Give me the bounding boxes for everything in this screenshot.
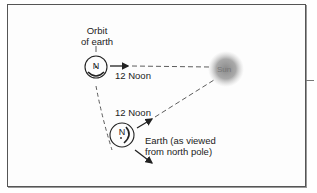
orbit-label-line1: Orbit xyxy=(80,25,114,36)
sun-line-bottom xyxy=(155,80,214,117)
diagram-svg xyxy=(0,0,317,193)
orbit-label: Orbit of earth xyxy=(80,25,114,47)
earth-label-line1: Earth (as viewed xyxy=(145,135,216,146)
orbit-path xyxy=(96,86,112,150)
orbit-label-line2: of earth xyxy=(80,36,114,47)
earth-label-line2: from north pole) xyxy=(145,146,216,157)
noon-arrow-bottom xyxy=(137,119,152,128)
sun-label: Sun xyxy=(217,64,231,75)
noon-label-bottom: 12 Noon xyxy=(115,107,151,118)
sun-line-top xyxy=(132,66,210,67)
pole-label-bottom: N xyxy=(112,127,132,138)
pole-label-top: N xyxy=(85,61,107,72)
earth-label: Earth (as viewed from north pole) xyxy=(145,135,216,157)
noon-label-top: 12 Noon xyxy=(115,70,151,81)
